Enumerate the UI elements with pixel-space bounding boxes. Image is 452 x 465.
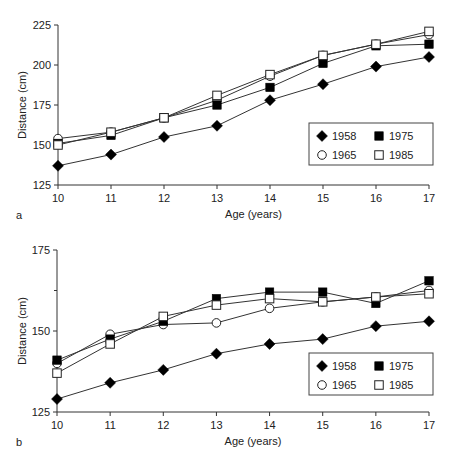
filled-diamond-marker (211, 348, 222, 359)
legend: 1958197519651985 (309, 123, 433, 165)
open-circle-icon (318, 381, 327, 390)
filled-square-marker (319, 59, 328, 68)
legend-box (309, 123, 433, 165)
y-tick-label: 150 (32, 325, 50, 337)
open-circle-icon (318, 151, 327, 160)
open-square-marker (319, 51, 328, 60)
x-tick-label: 15 (317, 419, 329, 431)
x-tick-label: 10 (52, 192, 64, 204)
x-tick-label: 16 (370, 192, 382, 204)
legend-item-1985: 1985 (375, 149, 414, 161)
y-tick-label: 200 (33, 59, 51, 71)
legend-item-1965: 1965 (318, 149, 357, 161)
open-square-marker (53, 369, 62, 378)
filled-diamond-marker (158, 364, 169, 375)
legend-item-1958: 1958 (317, 360, 357, 372)
filled-square-marker (318, 288, 327, 297)
filled-square-marker (425, 277, 434, 286)
legend-label: 1975 (389, 130, 413, 142)
open-square-marker (159, 312, 168, 321)
legend-label: 1958 (332, 130, 356, 142)
axes: 1251501751011121314151617 (32, 244, 435, 431)
filled-diamond-marker (424, 316, 435, 327)
filled-square-icon (375, 362, 384, 371)
x-tick-label: 12 (158, 192, 170, 204)
filled-square-marker (213, 101, 222, 110)
filled-diamond-marker (53, 160, 64, 171)
legend-item-1985: 1985 (375, 379, 414, 391)
filled-diamond-marker (159, 132, 170, 143)
open-square-marker (265, 294, 274, 303)
legend-label: 1965 (332, 149, 356, 161)
filled-diamond-marker (212, 120, 223, 131)
x-axis-title: Age (years) (225, 435, 282, 447)
panel-letter: b (16, 436, 22, 448)
y-axis-title: Distance (cm) (16, 297, 28, 365)
filled-diamond-marker (265, 95, 276, 106)
x-tick-label: 13 (211, 192, 223, 204)
x-tick-label: 11 (104, 419, 115, 431)
x-axis-title: Age (years) (225, 208, 282, 220)
filled-diamond-marker (424, 52, 435, 63)
open-square-marker (372, 293, 381, 301)
y-tick-label: 225 (33, 19, 51, 31)
x-tick-label: 14 (264, 192, 276, 204)
series-markers-1975 (53, 277, 434, 365)
open-square-marker (106, 340, 115, 349)
filled-diamond-marker (105, 377, 116, 388)
filled-diamond-marker (318, 79, 329, 90)
x-tick-label: 16 (370, 419, 382, 431)
filled-diamond-marker (52, 394, 63, 405)
open-square-marker (372, 40, 381, 49)
y-axis-title: Distance (cm) (16, 71, 28, 139)
open-circle-marker (265, 304, 274, 313)
filled-diamond-marker (264, 338, 275, 349)
filled-diamond-marker (317, 334, 328, 345)
legend-label: 1958 (332, 360, 356, 372)
line-chart-b: 1251501751011121314151617Age (years)Dist… (0, 232, 452, 465)
open-circle-marker (212, 319, 221, 328)
open-square-marker (160, 114, 169, 123)
y-tick-label: 150 (33, 139, 51, 151)
open-square-marker (107, 128, 116, 137)
filled-square-icon (375, 132, 384, 141)
filled-diamond-marker (106, 149, 117, 160)
open-square-icon (375, 381, 384, 390)
x-tick-label: 10 (51, 419, 63, 431)
legend-label: 1975 (389, 360, 413, 372)
legend-label: 1985 (389, 379, 413, 391)
line-chart-a: 1251501752002251011121314151617Age (year… (0, 0, 452, 232)
x-tick-label: 12 (157, 419, 169, 431)
x-tick-label: 17 (423, 419, 435, 431)
x-tick-label: 15 (317, 192, 329, 204)
y-tick-label: 125 (32, 406, 50, 418)
legend-item-1975: 1975 (375, 130, 414, 142)
filled-diamond-marker (370, 321, 381, 332)
y-tick-label: 175 (33, 99, 51, 111)
legend-item-1975: 1975 (375, 360, 414, 372)
open-square-icon (375, 151, 384, 160)
x-tick-label: 14 (263, 419, 275, 431)
filled-square-marker (53, 356, 62, 365)
legend-item-1958: 1958 (317, 130, 357, 142)
open-square-marker (212, 301, 221, 310)
open-square-marker (266, 70, 275, 79)
filled-diamond-marker (371, 61, 382, 72)
y-tick-label: 175 (32, 244, 50, 256)
legend-label: 1965 (332, 379, 356, 391)
open-square-marker (318, 298, 327, 307)
x-tick-label: 13 (210, 419, 222, 431)
x-tick-label: 17 (423, 192, 435, 204)
open-square-marker (425, 27, 434, 36)
open-square-marker (425, 289, 434, 298)
chart-panel-a: 1251501752002251011121314151617Age (year… (0, 0, 452, 232)
y-tick-label: 125 (33, 179, 51, 191)
legend-box (309, 353, 433, 395)
open-square-marker (54, 141, 63, 150)
chart-panel-b: 1251501751011121314151617Age (years)Dist… (0, 232, 452, 465)
legend: 1958197519651985 (309, 353, 433, 395)
filled-square-marker (266, 83, 275, 92)
legend-label: 1985 (389, 149, 413, 161)
legend-item-1965: 1965 (318, 379, 357, 391)
x-tick-label: 11 (105, 192, 116, 204)
